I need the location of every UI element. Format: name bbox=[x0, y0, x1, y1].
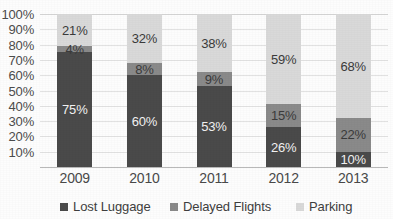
x-axis-tick-label: 2012 bbox=[249, 170, 319, 186]
legend-item[interactable]: Delayed Flights bbox=[170, 198, 271, 215]
x-axis-labels: 20092010201120122013 bbox=[40, 170, 388, 190]
bar-group[interactable]: 32%8%60% bbox=[127, 14, 162, 167]
bar-segment-label: 59% bbox=[271, 53, 296, 66]
bar-segment[interactable]: 22% bbox=[336, 118, 371, 152]
stacked-bar[interactable]: 32%8%60% bbox=[127, 14, 162, 167]
y-axis-tick-label: 60% bbox=[9, 69, 34, 82]
bar-segment[interactable]: 26% bbox=[266, 127, 301, 167]
bar-group[interactable]: 21%4%75% bbox=[57, 14, 92, 167]
x-axis-tick-label: 2009 bbox=[40, 170, 110, 186]
bar-segment[interactable]: 32% bbox=[127, 14, 162, 63]
legend-item[interactable]: Lost Luggage bbox=[60, 198, 151, 215]
bar-segment-label: 60% bbox=[132, 115, 157, 128]
stacked-bar[interactable]: 68%22%10% bbox=[336, 14, 371, 167]
plot-area: 21%4%75%32%8%60%38%9%53%59%15%26%68%22%1… bbox=[40, 14, 388, 167]
y-axis-tick-label: 80% bbox=[9, 38, 34, 51]
y-axis-labels: 100%90%80%70%60%50%40%30%20%10% bbox=[0, 14, 37, 167]
bar-series-container: 21%4%75%32%8%60%38%9%53%59%15%26%68%22%1… bbox=[40, 14, 388, 167]
legend-swatch-icon bbox=[296, 203, 304, 211]
legend-label: Parking bbox=[309, 200, 352, 214]
stacked-bar[interactable]: 21%4%75% bbox=[57, 14, 92, 167]
bar-group[interactable]: 68%22%10% bbox=[336, 14, 371, 167]
bar-segment-label: 22% bbox=[340, 128, 365, 141]
y-axis-tick-label: 30% bbox=[9, 115, 34, 128]
bar-segment[interactable]: 9% bbox=[197, 72, 232, 86]
y-axis-tick-label: 40% bbox=[9, 99, 34, 112]
bar-group[interactable]: 38%9%53% bbox=[197, 14, 232, 167]
legend-swatch-icon bbox=[60, 203, 68, 211]
legend-label: Lost Luggage bbox=[73, 200, 151, 214]
bar-segment-label: 9% bbox=[205, 73, 223, 86]
y-axis-tick-label: 50% bbox=[9, 84, 34, 97]
stacked-bar[interactable]: 38%9%53% bbox=[197, 14, 232, 167]
bar-segment[interactable]: 59% bbox=[266, 14, 301, 104]
bar-segment[interactable]: 68% bbox=[336, 14, 371, 118]
y-axis-tick-label: 20% bbox=[9, 130, 34, 143]
chart-title bbox=[0, 0, 393, 10]
bar-segment-label: 26% bbox=[271, 141, 296, 154]
bar-segment-label: 8% bbox=[135, 63, 153, 76]
bar-segment[interactable]: 75% bbox=[57, 52, 92, 167]
y-axis-tick-label: 90% bbox=[9, 23, 34, 36]
bar-segment[interactable]: 38% bbox=[197, 14, 232, 72]
legend-label: Delayed Flights bbox=[183, 200, 271, 214]
x-axis-tick-label: 2011 bbox=[179, 170, 249, 186]
stacked-bar-chart: 100%90%80%70%60%50%40%30%20%10% 21%4%75%… bbox=[0, 0, 393, 219]
x-axis-line bbox=[40, 167, 388, 168]
bar-segment-label: 21% bbox=[62, 24, 87, 37]
y-axis-tick-label: 10% bbox=[9, 145, 34, 158]
bar-segment-label: 68% bbox=[340, 60, 365, 73]
bar-segment-label: 53% bbox=[201, 120, 226, 133]
bar-segment[interactable]: 53% bbox=[197, 86, 232, 167]
chart-legend: Lost LuggageDelayed FlightsParking bbox=[0, 198, 393, 218]
bar-segment-label: 15% bbox=[271, 109, 296, 122]
x-axis-tick-label: 2010 bbox=[110, 170, 180, 186]
legend-swatch-icon bbox=[170, 203, 178, 211]
bar-segment[interactable]: 60% bbox=[127, 75, 162, 167]
bar-segment[interactable]: 15% bbox=[266, 104, 301, 127]
bar-segment[interactable]: 8% bbox=[127, 63, 162, 75]
bar-segment-label: 32% bbox=[132, 32, 157, 45]
y-axis-tick-label: 70% bbox=[9, 53, 34, 66]
x-axis-tick-label: 2013 bbox=[318, 170, 388, 186]
bar-segment-label: 10% bbox=[340, 153, 365, 166]
bar-segment-label: 4% bbox=[66, 43, 84, 56]
bar-group[interactable]: 59%15%26% bbox=[266, 14, 301, 167]
stacked-bar[interactable]: 59%15%26% bbox=[266, 14, 301, 167]
bar-segment-label: 75% bbox=[62, 103, 87, 116]
bar-segment-label: 38% bbox=[201, 37, 226, 50]
bar-segment[interactable]: 10% bbox=[336, 152, 371, 167]
legend-item[interactable]: Parking bbox=[296, 198, 352, 215]
y-axis-tick-label: 100% bbox=[2, 8, 34, 21]
